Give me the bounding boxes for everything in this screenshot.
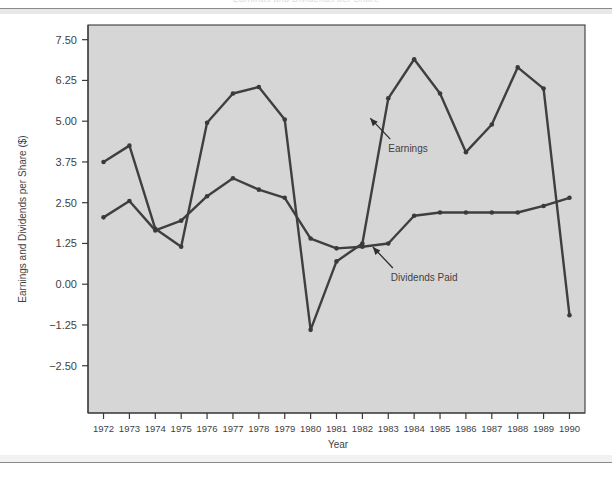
y-tick-label: −2.50 xyxy=(49,360,77,372)
x-axis-title: Year xyxy=(328,439,349,450)
data-point xyxy=(205,121,210,126)
x-axis-tick-labels: 1972197319741975197619771978197919801981… xyxy=(93,423,580,434)
data-point xyxy=(127,199,132,204)
data-point xyxy=(257,85,262,90)
bottom-band xyxy=(0,455,612,462)
y-tick-label: 5.00 xyxy=(56,115,77,127)
data-point xyxy=(179,218,184,223)
y-axis-title: Earnings and Dividends per Share ($) xyxy=(17,135,28,302)
data-point xyxy=(438,91,443,96)
data-point xyxy=(412,213,417,218)
data-point xyxy=(179,244,184,249)
x-tick-label: 1975 xyxy=(171,423,192,434)
data-point xyxy=(490,210,495,215)
x-tick-label: 1990 xyxy=(559,423,580,434)
y-tick-label: 0.00 xyxy=(56,278,77,290)
data-point xyxy=(360,244,365,249)
x-tick-label: 1974 xyxy=(145,423,166,434)
x-tick-label: 1984 xyxy=(404,423,425,434)
x-tick-label: 1981 xyxy=(326,423,347,434)
chart-figure: Earnings and Dividends per Share 7.506.2… xyxy=(0,0,612,479)
x-tick-label: 1983 xyxy=(378,423,399,434)
data-point xyxy=(464,210,469,215)
data-point xyxy=(438,210,443,215)
data-point xyxy=(257,187,262,192)
data-point xyxy=(153,228,158,233)
data-point xyxy=(515,210,520,215)
x-tick-label: 1980 xyxy=(300,423,321,434)
y-tick-label: 3.75 xyxy=(56,156,77,168)
x-tick-label: 1988 xyxy=(507,423,528,434)
data-point xyxy=(490,122,495,127)
x-tick-label: 1986 xyxy=(455,423,476,434)
x-tick-label: 1989 xyxy=(533,423,554,434)
x-tick-label: 1978 xyxy=(248,423,269,434)
data-point xyxy=(386,241,391,246)
data-point xyxy=(231,91,236,96)
x-tick-label: 1979 xyxy=(274,423,295,434)
x-tick-label: 1985 xyxy=(429,423,450,434)
data-point xyxy=(282,117,287,122)
x-tick-label: 1982 xyxy=(352,423,373,434)
x-tick-label: 1972 xyxy=(93,423,114,434)
data-point xyxy=(541,86,546,91)
data-point xyxy=(334,259,339,264)
y-axis-ticks xyxy=(82,25,88,413)
data-point xyxy=(205,194,210,199)
y-axis-tick-labels: 7.506.255.003.752.501.250.00−1.25−2.50 xyxy=(49,34,77,372)
y-tick-label: 6.25 xyxy=(56,74,77,86)
x-axis-ticks xyxy=(88,413,585,419)
data-point xyxy=(308,328,313,333)
data-point xyxy=(515,65,520,70)
data-point xyxy=(231,176,236,181)
data-point xyxy=(101,160,106,165)
line-chart: 7.506.255.003.752.501.250.00−1.25−2.50 1… xyxy=(0,0,612,479)
y-tick-label: 2.50 xyxy=(56,197,77,209)
data-point xyxy=(386,96,391,101)
data-point xyxy=(101,215,106,220)
data-point xyxy=(541,204,546,209)
data-point xyxy=(412,57,417,62)
y-tick-label: −1.25 xyxy=(49,319,77,331)
bottom-divider xyxy=(0,462,612,463)
data-point xyxy=(334,246,339,251)
data-point xyxy=(308,236,313,241)
y-tick-label: 7.50 xyxy=(56,34,77,46)
data-point xyxy=(567,196,572,201)
y-tick-label: 1.25 xyxy=(56,237,77,249)
data-point xyxy=(127,143,132,148)
x-tick-label: 1973 xyxy=(119,423,140,434)
annotation-label-dividends-paid: Dividends Paid xyxy=(391,272,458,283)
x-tick-label: 1987 xyxy=(481,423,502,434)
annotation-label-earnings: Earnings xyxy=(388,143,427,154)
x-tick-label: 1977 xyxy=(222,423,243,434)
data-point xyxy=(282,196,287,201)
x-tick-label: 1976 xyxy=(197,423,218,434)
data-point xyxy=(464,150,469,155)
data-point xyxy=(567,313,572,318)
